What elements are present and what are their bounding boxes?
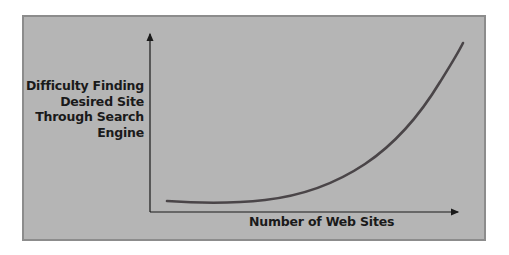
- y-axis-label: Difficulty Finding Desired Site Through …: [24, 78, 144, 140]
- x-axis-label: Number of Web Sites: [249, 214, 394, 229]
- difficulty-curve: [167, 43, 463, 203]
